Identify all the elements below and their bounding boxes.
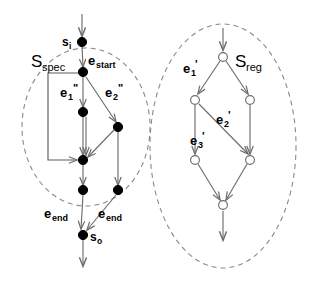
spec-edge-eend-left <box>81 195 83 229</box>
label-s-i-main: s <box>62 35 69 49</box>
reg-edge-e1p <box>198 61 220 94</box>
label-e-end-left-main: e <box>44 206 51 221</box>
label-region-reg-sub: reg <box>246 61 262 73</box>
label-e3p-main: e <box>190 133 197 148</box>
diagram-svg: s i e start S spec e 1 " e 2 " e end e e… <box>0 0 331 282</box>
label-e2p-prime: ' <box>228 109 231 121</box>
diagram-canvas: s i e start S spec e 1 " e 2 " e end e e… <box>0 0 331 282</box>
label-e-end-right-main: e <box>98 206 105 221</box>
spec-node-right-2 <box>113 185 122 194</box>
label-e2dd-main: e <box>105 85 112 100</box>
label-region-spec-main: S <box>31 52 42 71</box>
reg-node-right <box>246 96 255 105</box>
label-region-reg-main: S <box>235 52 246 71</box>
label-e1p-main: e <box>183 61 190 76</box>
reg-edge-bl-to-bot <box>198 164 220 200</box>
label-e2p-main: e <box>216 112 223 127</box>
label-e1dd-main: e <box>60 85 67 100</box>
label-e2dd-prime: " <box>118 82 123 94</box>
spec-node-s-o <box>78 230 87 239</box>
reg-node-bottom <box>219 201 228 210</box>
label-s-o-sub: o <box>97 236 102 246</box>
reg-node-bottom-right <box>246 156 255 165</box>
spec-node-right-1 <box>113 122 122 131</box>
spec-node-left-2 <box>78 185 87 194</box>
label-e-start-sub: start <box>96 60 116 70</box>
spec-node-s-i <box>77 37 86 46</box>
label-e-end-right-sub: end <box>106 213 122 223</box>
reg-node-bottom-left <box>191 156 200 165</box>
reg-edge-br-to-bot <box>226 164 247 200</box>
label-e3p-prime: ' <box>202 130 205 142</box>
label-e1dd-prime: " <box>73 82 78 94</box>
reg-node-top <box>219 53 228 62</box>
spec-node-left-1 <box>78 107 87 116</box>
reg-edge-e2p <box>199 104 248 154</box>
reg-node-left <box>191 96 200 105</box>
spec-node-merge <box>78 155 87 164</box>
spec-edge-right-to-merge <box>88 130 114 157</box>
diagram-labels: s i e start S spec e 1 " e 2 " e end e e… <box>31 35 262 246</box>
label-e-end-left-sub: end <box>52 213 68 223</box>
label-e1p-prime: ' <box>195 58 198 70</box>
spec-graph <box>48 14 123 266</box>
label-e-start-main: e <box>88 53 95 68</box>
label-region-spec-sub: spec <box>42 61 66 73</box>
label-s-o-main: s <box>90 230 97 244</box>
spec-node-start <box>78 67 87 76</box>
spec-edge-start <box>82 46 83 67</box>
label-s-i-sub: i <box>69 41 71 51</box>
